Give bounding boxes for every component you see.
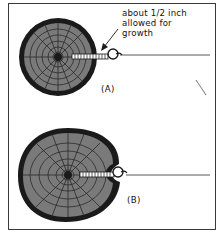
- panel-label-b: (B): [127, 195, 141, 205]
- callout-arrow: [101, 29, 118, 51]
- tree-growth-diagram: [0, 0, 224, 235]
- callout-line-3: growth: [122, 28, 187, 38]
- callout-line-2: allowed for: [122, 18, 187, 28]
- growth-callout: about 1/2 inch allowed for growth: [122, 8, 187, 38]
- callout-line-1: about 1/2 inch: [122, 8, 187, 18]
- panel-label-a: (A): [101, 84, 115, 94]
- stray-mark: [196, 80, 206, 95]
